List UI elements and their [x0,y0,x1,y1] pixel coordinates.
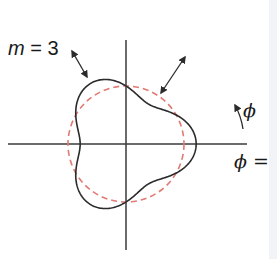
mode-value: 3 [47,37,58,59]
mode-equals: = [25,37,48,59]
double-arrow-upper-right [161,57,185,93]
diagram-canvas: m = 3 ϕ ϕ = [0,0,277,259]
angle-origin-suffix: = [247,150,269,172]
angle-label: ϕ [243,99,256,121]
phi-direction-arrow [235,105,243,129]
double-arrow-upper-left [72,51,87,77]
mode-number-label: m = 3 [8,37,59,60]
angle-origin-label: ϕ = [234,150,269,172]
angle-origin-variable: ϕ [234,150,247,172]
mode-variable: m [8,37,25,59]
